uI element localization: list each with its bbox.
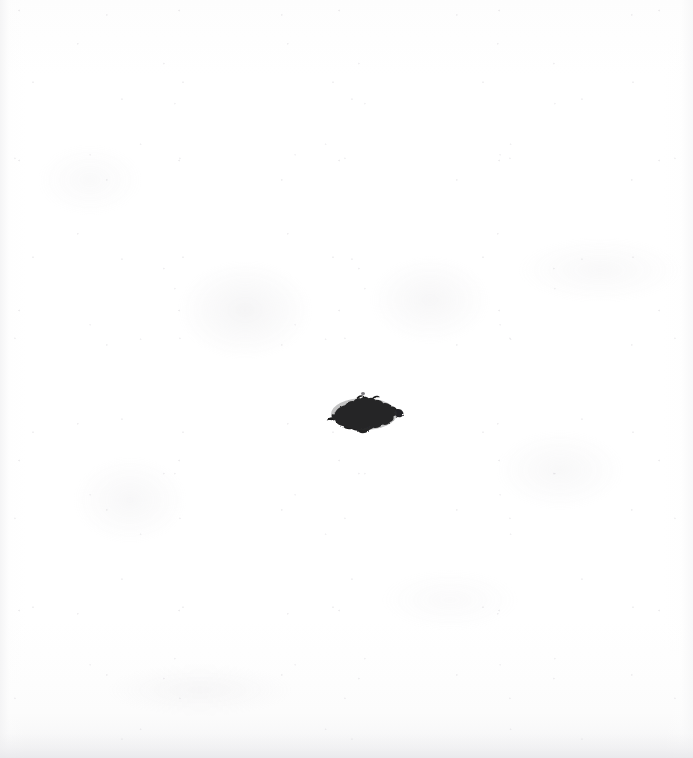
paper-background: [0, 0, 693, 758]
scanned-page: Scanned blank page with ink blot ink-blo…: [0, 0, 693, 758]
ink-blot: [326, 390, 404, 440]
